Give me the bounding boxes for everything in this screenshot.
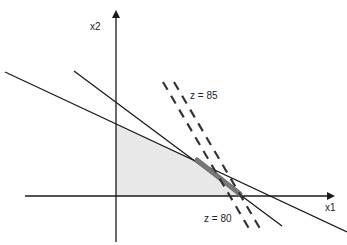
- constraint-line-shallow: [5, 72, 347, 232]
- y-axis-label: x2: [90, 21, 101, 32]
- feasible-region: [116, 124, 240, 196]
- objective-label-z80: z = 80: [204, 213, 232, 224]
- objective-label-z85: z = 85: [190, 90, 218, 101]
- x-axis-label: x1: [325, 202, 336, 213]
- lp-diagram: x2 x1 z = 85 z = 80: [0, 0, 347, 245]
- constraint-line-steep: [74, 71, 282, 226]
